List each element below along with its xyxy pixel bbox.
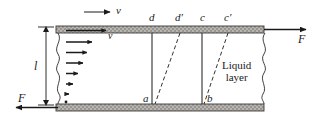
label-velocity-inner: v xyxy=(108,31,112,41)
liquid-layer-line-2: layer xyxy=(226,71,248,83)
left-break-line xyxy=(57,33,61,104)
label-liquid-layer: Liquid layer xyxy=(222,60,251,83)
label-point-d: d xyxy=(149,12,155,23)
viscosity-shear-diagram: v v l F F d d′ c c′ a b Liquid layer xyxy=(0,0,320,125)
sheared-line-da xyxy=(155,33,180,104)
label-point-c: c xyxy=(200,12,205,23)
label-point-d-prime: d′ xyxy=(175,12,183,23)
right-break-line xyxy=(262,33,266,104)
label-velocity-top: v xyxy=(116,5,121,16)
label-point-a: a xyxy=(143,93,149,104)
top-plate xyxy=(56,26,264,33)
label-point-b: b xyxy=(207,93,213,104)
label-force-right: F xyxy=(298,33,305,45)
diagram-canvas xyxy=(0,0,320,125)
label-gap-l: l xyxy=(34,60,37,72)
gap-dimension-line xyxy=(38,26,54,106)
velocity-profile-arrows xyxy=(65,31,106,104)
liquid-layer-line-1: Liquid xyxy=(222,59,251,71)
label-point-c-prime: c′ xyxy=(224,12,231,23)
bottom-plate xyxy=(56,104,264,111)
label-force-left: F xyxy=(18,92,25,104)
